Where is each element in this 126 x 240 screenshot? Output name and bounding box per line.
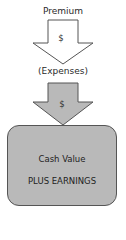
dollar-symbol-2: $	[56, 99, 68, 109]
cash-value-box: Cash Value PLUS EARNINGS	[7, 125, 117, 206]
cash-value-label: Cash Value	[8, 154, 116, 164]
expenses-label: (Expenses)	[0, 66, 126, 77]
plus-earnings-label: PLUS EARNINGS	[8, 176, 116, 186]
dollar-symbol-1: $	[55, 33, 67, 43]
